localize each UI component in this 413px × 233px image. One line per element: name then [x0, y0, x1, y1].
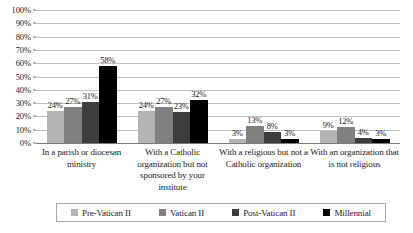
- bar-value-label: 32%: [191, 90, 206, 99]
- legend-label: Vatican II: [170, 208, 204, 218]
- bar[interactable]: [82, 102, 100, 143]
- bar[interactable]: [246, 126, 264, 143]
- y-axis-tick-label: 80%: [16, 32, 31, 41]
- y-axis-tick-label: 90%: [16, 19, 31, 28]
- y-axis-tick-label: 100%: [12, 6, 31, 15]
- x-axis-category-label: With a Catholic organization but not spo…: [127, 147, 218, 193]
- gridline: [36, 143, 400, 144]
- bar-group: 24%27%31%58%: [47, 10, 117, 143]
- bar-slot: 3%: [281, 10, 299, 143]
- legend-item[interactable]: Millennial: [323, 208, 371, 218]
- bar-slot: 23%: [173, 10, 191, 143]
- x-axis-category-label: With an organization that is not religio…: [309, 147, 400, 170]
- y-axis-tick-label: 70%: [16, 45, 31, 54]
- legend-label: Pre-Vatican II: [82, 208, 131, 218]
- bar-value-label: 27%: [65, 97, 80, 106]
- bar[interactable]: [155, 107, 173, 143]
- bar-slot: 3%: [229, 10, 247, 143]
- plot-area: 24%27%31%58%24%27%23%32%3%13%8%3%9%12%4%…: [36, 10, 400, 143]
- bar-value-label: 4%: [358, 128, 369, 137]
- bar-value-label: 3%: [232, 129, 243, 138]
- bar-value-label: 9%: [323, 121, 334, 130]
- bar-slot: 27%: [155, 10, 173, 143]
- bar-value-label: 8%: [267, 122, 278, 131]
- bar-slot: 12%: [337, 10, 355, 143]
- y-axis-tick-label: 20%: [16, 112, 31, 121]
- bar-value-label: 31%: [83, 92, 98, 101]
- y-axis-tick-label: 10%: [16, 125, 31, 134]
- bar[interactable]: [281, 139, 299, 143]
- bar-slot: 9%: [320, 10, 338, 143]
- bar-group: 24%27%23%32%: [138, 10, 208, 143]
- y-axis-tick-label: 60%: [16, 59, 31, 68]
- bar-value-label: 58%: [100, 56, 115, 65]
- bar-group: 9%12%4%3%: [320, 10, 390, 143]
- bar-slot: 24%: [47, 10, 65, 143]
- bar-group: 3%13%8%3%: [229, 10, 299, 143]
- bar[interactable]: [99, 66, 117, 143]
- bar-value-label: 23%: [174, 102, 189, 111]
- bar-chart: 0%10%20%30%40%50%60%70%80%90%100% 24%27%…: [0, 0, 413, 233]
- y-axis: 0%10%20%30%40%50%60%70%80%90%100%: [0, 10, 34, 143]
- bar-slot: 3%: [372, 10, 390, 143]
- bar-slot: 32%: [190, 10, 208, 143]
- bar[interactable]: [173, 112, 191, 143]
- bar[interactable]: [320, 131, 338, 143]
- y-axis-tick-label: 0%: [20, 139, 31, 148]
- y-axis-tick-label: 40%: [16, 85, 31, 94]
- bar[interactable]: [138, 111, 156, 143]
- x-axis-category-label: With a religious but not a Catholic orga…: [218, 147, 309, 170]
- bar-value-label: 13%: [247, 116, 262, 125]
- bar[interactable]: [337, 127, 355, 143]
- legend-item[interactable]: Vatican II: [159, 208, 204, 218]
- bar-groups: 24%27%31%58%24%27%23%32%3%13%8%3%9%12%4%…: [36, 10, 400, 143]
- bar-value-label: 24%: [139, 101, 154, 110]
- bar-value-label: 12%: [338, 117, 353, 126]
- bar-slot: 27%: [64, 10, 82, 143]
- bar[interactable]: [229, 139, 247, 143]
- chart-legend: Pre-Vatican IIVatican IIPost-Vatican IIM…: [56, 203, 386, 222]
- bar[interactable]: [47, 111, 65, 143]
- category-labels: In a parish or diocesan ministryWith a C…: [36, 147, 400, 193]
- legend-item[interactable]: Pre-Vatican II: [71, 208, 131, 218]
- bar[interactable]: [264, 132, 282, 143]
- legend-swatch-icon: [159, 209, 166, 216]
- bar-slot: 13%: [246, 10, 264, 143]
- bar-slot: 58%: [99, 10, 117, 143]
- bar[interactable]: [355, 138, 373, 143]
- bar-slot: 4%: [355, 10, 373, 143]
- legend-label: Millennial: [334, 208, 371, 218]
- bar[interactable]: [64, 107, 82, 143]
- legend-swatch-icon: [232, 209, 239, 216]
- x-axis-category-label: In a parish or diocesan ministry: [36, 147, 127, 170]
- legend-swatch-icon: [323, 209, 330, 216]
- bar-slot: 8%: [264, 10, 282, 143]
- legend-item[interactable]: Post-Vatican II: [232, 208, 295, 218]
- legend-label: Post-Vatican II: [243, 208, 295, 218]
- bar-value-label: 24%: [48, 101, 63, 110]
- bar[interactable]: [372, 139, 390, 143]
- bar[interactable]: [190, 100, 208, 143]
- bar-slot: 31%: [82, 10, 100, 143]
- bar-value-label: 3%: [375, 129, 386, 138]
- bar-value-label: 3%: [284, 129, 295, 138]
- bar-value-label: 27%: [156, 97, 171, 106]
- legend-swatch-icon: [71, 209, 78, 216]
- y-axis-tick-label: 30%: [16, 99, 31, 108]
- bar-slot: 24%: [138, 10, 156, 143]
- y-axis-tick-label: 50%: [16, 72, 31, 81]
